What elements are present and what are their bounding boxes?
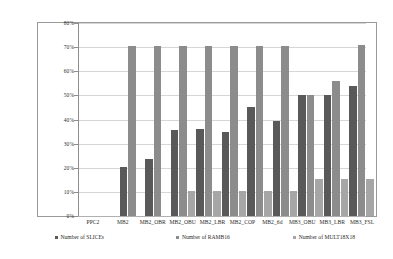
bar [120, 167, 128, 216]
legend-label: Number of MULT18X18 [299, 234, 355, 240]
legend-swatch-icon [293, 236, 296, 239]
bar [239, 191, 247, 216]
x-axis-labels: PPC2MB2MB2_OBRMB2_OBUMB2_LBRMB2_COPMB2_6… [78, 219, 377, 225]
y-axis-tick-label: 60% [64, 68, 74, 74]
gridline [78, 216, 366, 217]
bar-group [119, 23, 145, 216]
bar-group [323, 23, 349, 216]
bar [179, 46, 187, 216]
bar [213, 191, 221, 216]
legend-item: Number of RAMB16 [176, 234, 293, 240]
bar-group [272, 23, 298, 216]
x-axis-tick-label: MB3_LBR [317, 219, 347, 225]
bar [188, 191, 196, 216]
y-axis-tick-label: 30% [64, 141, 74, 147]
bar [196, 129, 204, 216]
bar [256, 46, 264, 216]
bar [154, 46, 162, 216]
chart-legend: Number of SLICEsNumber of RAMB16Number o… [55, 234, 355, 240]
bar-group [170, 23, 196, 216]
y-axis-tick-label: 40% [64, 117, 74, 123]
x-axis-tick-label: MB3_OBU [287, 219, 317, 225]
y-axis-tick-mark [74, 23, 78, 24]
bar-groups [119, 23, 365, 216]
bar-chart: 80%70%60%50%40%30%20%10%0% PPC2MB2MB2_OB… [0, 0, 393, 259]
bar [247, 107, 255, 216]
bar [298, 95, 306, 216]
legend-item: Number of MULT18X18 [293, 234, 355, 240]
bar [205, 46, 213, 216]
x-axis-tick-label: MB3_FSL [347, 219, 377, 225]
bar-group [298, 23, 324, 216]
y-axis-tick-mark [74, 192, 78, 193]
y-axis-tick-label: 10% [64, 189, 74, 195]
x-axis-tick-label: MB2_OBR [138, 219, 168, 225]
legend-label: Number of SLICEs [61, 234, 105, 240]
plot-frame: 80%70%60%50%40%30%20%10%0% [37, 22, 377, 217]
bar [290, 191, 298, 216]
y-axis-tick-mark [74, 120, 78, 121]
bar [281, 46, 289, 216]
x-axis-tick-label: MB2 [108, 219, 138, 225]
bar [349, 86, 357, 216]
bar [230, 46, 238, 216]
bar [273, 121, 281, 216]
y-axis-tick-label: 0% [67, 213, 74, 219]
legend-label: Number of RAMB16 [182, 234, 230, 240]
y-axis-line [78, 23, 79, 216]
bar [307, 95, 315, 216]
bar [145, 159, 153, 216]
bar [264, 191, 272, 216]
bar-group [247, 23, 273, 216]
bar [315, 179, 323, 216]
y-axis-tick-mark [74, 71, 78, 72]
bar-group [221, 23, 247, 216]
bar [341, 179, 349, 216]
x-axis-tick-label: PPC2 [78, 219, 108, 225]
bar [171, 130, 179, 216]
x-axis-tick-label: MB2_6d [257, 219, 287, 225]
y-axis-tick-mark [74, 168, 78, 169]
y-axis-tick-mark [74, 144, 78, 145]
legend-swatch-icon [55, 236, 58, 239]
bar [332, 81, 340, 216]
y-axis-tick-mark [74, 216, 78, 217]
y-axis-tick-label: 70% [64, 44, 74, 50]
legend-swatch-icon [176, 236, 179, 239]
y-axis-tick-label: 20% [64, 165, 74, 171]
bar-group [196, 23, 222, 216]
bar [222, 132, 230, 216]
x-axis-tick-label: MB2_LBR [198, 219, 228, 225]
legend-item: Number of SLICEs [55, 234, 176, 240]
y-axis-tick-label: 50% [64, 92, 74, 98]
x-axis-tick-label: MB2_OBU [168, 219, 198, 225]
y-axis-tick-label: 80% [64, 20, 74, 26]
x-axis-tick-label: MB2_COP [228, 219, 258, 225]
bar [128, 46, 136, 216]
bar-group [349, 23, 375, 216]
bar [358, 45, 366, 216]
plot-area [78, 23, 366, 216]
bar [366, 179, 374, 216]
bar-group [145, 23, 171, 216]
bar [324, 95, 332, 216]
y-axis-tick-mark [74, 95, 78, 96]
y-axis-tick-mark [74, 47, 78, 48]
